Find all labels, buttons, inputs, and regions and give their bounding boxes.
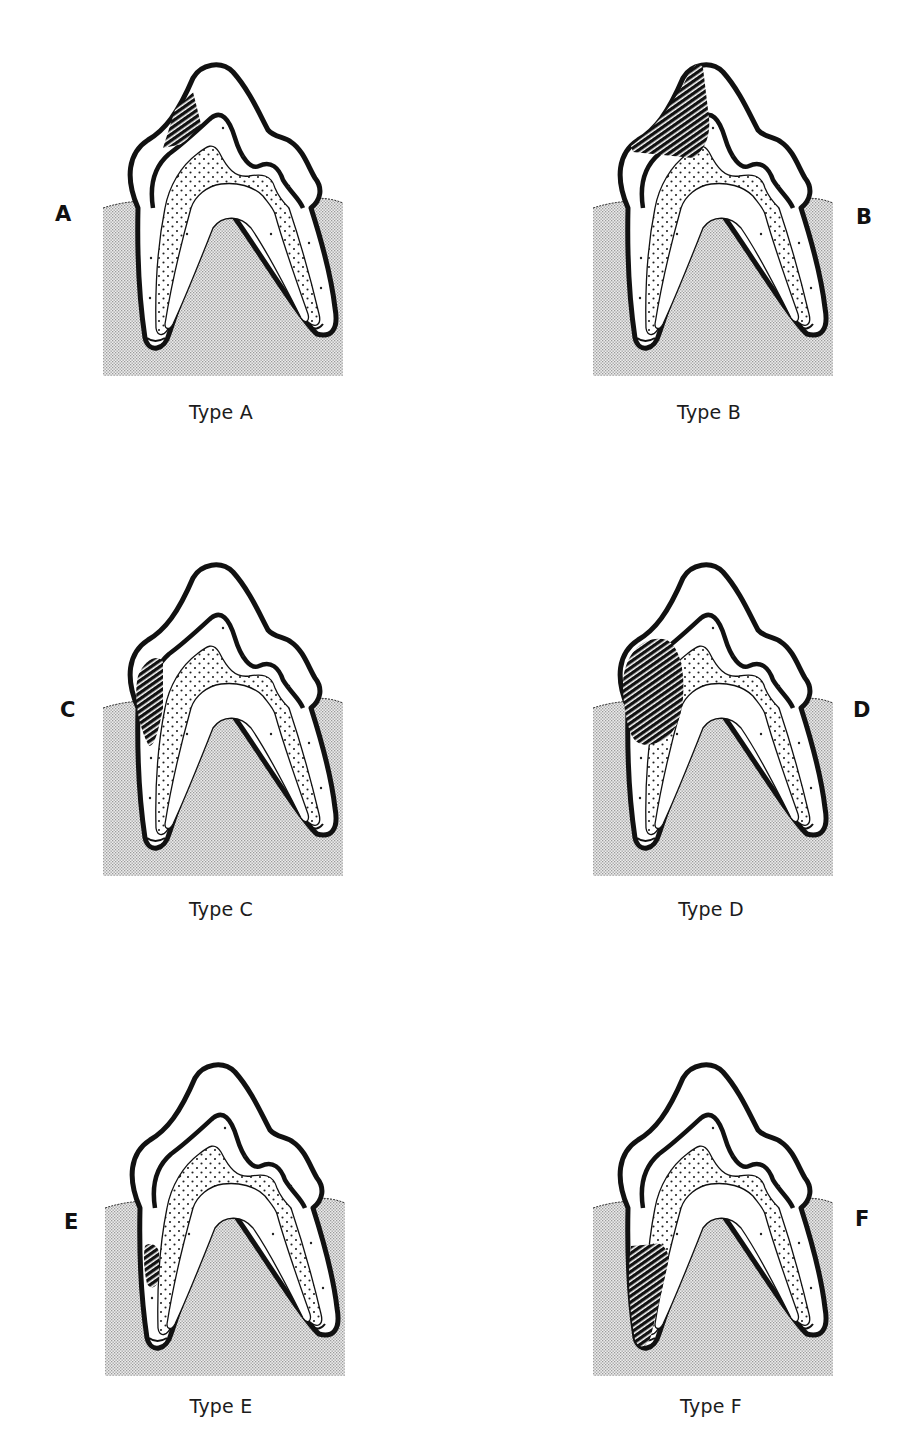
panel-label-e: E xyxy=(64,1210,78,1234)
tooth-diagram-icon xyxy=(103,558,343,878)
tooth-panel-d: Type D xyxy=(593,558,833,888)
panel-label-a: A xyxy=(55,202,71,226)
tooth-diagram-icon xyxy=(105,1058,345,1378)
caption-type-f: Type F xyxy=(591,1395,831,1417)
tooth-diagram-icon xyxy=(593,558,833,878)
tooth-panel-f: Type F xyxy=(593,1058,833,1388)
panel-label-b: B xyxy=(856,205,872,229)
caption-type-e: Type E xyxy=(101,1395,341,1417)
caption-type-a: Type A xyxy=(101,401,341,423)
tooth-diagram-icon xyxy=(593,58,833,378)
tooth-diagram-icon xyxy=(103,58,343,378)
caption-type-b: Type B xyxy=(589,401,829,423)
tooth-panel-e: Type E xyxy=(105,1058,345,1388)
tooth-panel-b: Type B xyxy=(593,58,833,388)
caption-type-c: Type C xyxy=(101,898,341,920)
tooth-diagram-icon xyxy=(593,1058,833,1378)
panel-label-c: C xyxy=(60,698,75,722)
lesion-area xyxy=(631,65,709,159)
tooth-panel-a: Type A xyxy=(103,58,343,388)
panel-label-f: F xyxy=(855,1207,869,1231)
panel-label-d: D xyxy=(853,698,870,722)
caption-type-d: Type D xyxy=(591,898,831,920)
tooth-panel-c: Type C xyxy=(103,558,343,888)
